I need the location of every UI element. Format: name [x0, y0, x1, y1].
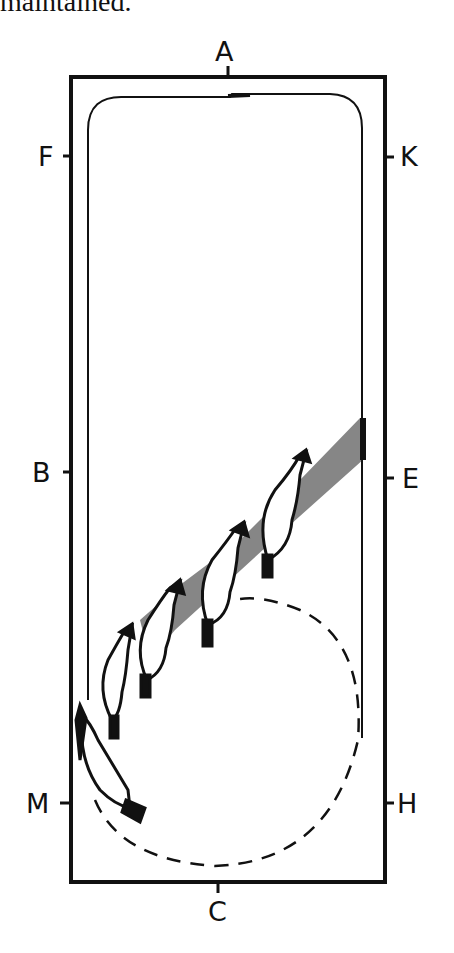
diagonal-band: [140, 418, 365, 660]
marker-h: H: [397, 790, 417, 817]
marker-m: M: [26, 790, 49, 817]
marker-b: B: [32, 459, 51, 486]
horse-figures: [76, 450, 310, 822]
marker-k: K: [400, 143, 418, 170]
marker-f: F: [38, 143, 54, 170]
marker-c: C: [208, 898, 227, 925]
marker-e: E: [402, 465, 419, 492]
arena-diagram: [0, 0, 454, 953]
horse-4: [103, 624, 134, 738]
horse-1: [263, 450, 310, 577]
horse-3: [140, 580, 184, 697]
horse-2: [202, 522, 248, 646]
marker-a: A: [215, 38, 233, 65]
